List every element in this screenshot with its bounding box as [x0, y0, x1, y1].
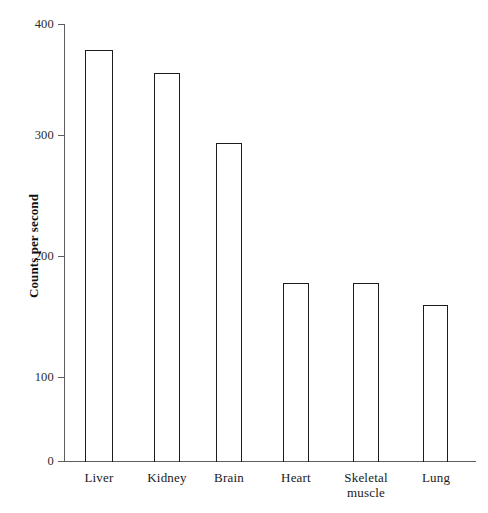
y-tick-mark: [58, 135, 65, 136]
bar-chart-figure: 400 300 200 100 0 Counts per second Live…: [0, 0, 488, 513]
y-tick-label: 300: [8, 129, 54, 142]
y-tick-label: 100: [8, 371, 54, 384]
bar-kidney: [154, 73, 180, 462]
y-tick-0: 0: [0, 461, 66, 462]
y-tick-400: 400: [0, 24, 66, 25]
y-tick-100: 100: [0, 377, 66, 378]
bar-lung: [423, 305, 448, 462]
bar-heart: [283, 283, 309, 462]
y-tick-mark: [58, 24, 65, 25]
y-tick-300: 300: [0, 135, 66, 136]
y-axis-line: [64, 24, 65, 462]
y-tick-mark: [58, 256, 65, 257]
y-tick-mark: [58, 461, 65, 462]
y-tick-mark: [58, 377, 65, 378]
bar-skeletal-muscle: [353, 283, 379, 462]
plot-area: 400 300 200 100 0 Counts per second Live…: [0, 0, 488, 513]
category-label-heart: Heart: [256, 470, 336, 485]
y-tick-label: 400: [8, 18, 54, 31]
category-label-skeletal-muscle: Skeletal muscle: [326, 470, 406, 500]
category-label-lung: Lung: [396, 470, 476, 485]
x-axis-line: [64, 461, 476, 462]
y-axis-title: Counts per second: [26, 146, 42, 346]
y-tick-label: 0: [8, 455, 54, 468]
bar-brain: [216, 143, 242, 462]
bar-liver: [85, 50, 113, 462]
